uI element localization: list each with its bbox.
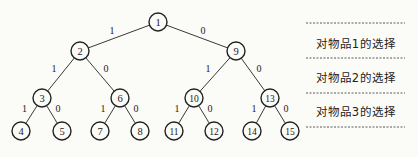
edge-1-9 (158, 22, 236, 51)
svg-text:9: 9 (233, 46, 238, 57)
svg-text:4: 4 (18, 126, 24, 137)
tree-node-8: 8 (131, 122, 149, 140)
edge-label: 1 (110, 25, 115, 36)
svg-text:13: 13 (265, 94, 275, 104)
tree-node-4: 4 (12, 122, 30, 140)
svg-text:12: 12 (209, 127, 219, 137)
edge-label: 1 (22, 103, 27, 114)
tree-node-7: 7 (91, 122, 109, 140)
edge-label: 0 (284, 103, 289, 114)
svg-text:1: 1 (155, 17, 160, 28)
edge-label: 0 (104, 63, 109, 74)
edge-label: 1 (101, 103, 106, 114)
tree-node-9: 9 (227, 42, 245, 60)
svg-text:6: 6 (117, 93, 122, 104)
level-label-3: 对物品3的选择 (305, 103, 407, 119)
edge-label: 1 (175, 103, 180, 114)
decision-tree-diagram: 10101010101010129361013457811121415 对物品1… (0, 0, 418, 157)
svg-text:7: 7 (97, 126, 102, 137)
tree-node-1: 1 (149, 13, 167, 31)
edge-label: 0 (257, 63, 262, 74)
tree-node-13: 13 (261, 89, 279, 107)
edge-label: 1 (252, 103, 257, 114)
svg-text:10: 10 (189, 94, 199, 104)
edge-label: 1 (52, 63, 57, 74)
tree-node-2: 2 (71, 42, 89, 60)
svg-text:3: 3 (39, 93, 44, 104)
level-label-2: 对物品2的选择 (305, 69, 407, 85)
tree-node-12: 12 (205, 122, 223, 140)
edge-label: 0 (208, 103, 213, 114)
edge-label: 0 (56, 103, 61, 114)
tree-node-10: 10 (185, 89, 203, 107)
tree-node-5: 5 (53, 122, 71, 140)
edge-label: 0 (201, 25, 206, 36)
tree-node-15: 15 (281, 122, 299, 140)
tree-node-3: 3 (33, 89, 51, 107)
edge-label: 1 (206, 63, 211, 74)
svg-text:15: 15 (285, 127, 295, 137)
svg-text:14: 14 (247, 127, 257, 137)
tree-node-11: 11 (165, 122, 183, 140)
tree-node-6: 6 (111, 89, 129, 107)
svg-text:11: 11 (169, 127, 178, 137)
edge-label: 0 (134, 103, 139, 114)
level-label-1: 对物品1的选择 (305, 35, 407, 51)
svg-text:5: 5 (59, 126, 64, 137)
edge-1-2 (80, 22, 158, 51)
svg-text:2: 2 (77, 46, 82, 57)
tree-node-14: 14 (243, 122, 261, 140)
svg-text:8: 8 (137, 126, 142, 137)
